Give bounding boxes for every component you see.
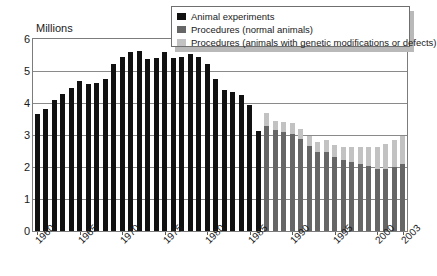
bar-column (60, 39, 65, 231)
bar-column (205, 39, 210, 231)
bar-segment (264, 113, 269, 126)
bar-column (120, 39, 125, 231)
bar-segment (349, 147, 354, 162)
bar-column (324, 39, 329, 231)
y-axis-tick-label: 2 (4, 162, 30, 172)
bar-column (239, 39, 244, 231)
bar-column (375, 39, 380, 231)
bar-segment (35, 114, 40, 231)
bar-segment (366, 166, 371, 231)
bar-column (77, 39, 82, 231)
bar-column (349, 39, 354, 231)
y-axis-tick-label: 5 (4, 66, 30, 76)
bar-segment (77, 81, 82, 231)
bar-segment (315, 152, 320, 231)
bar-segment (162, 52, 167, 231)
bar-segment (341, 160, 346, 231)
bar-segment (358, 147, 363, 165)
bar-column (94, 39, 99, 231)
y-axis-tick-label: 1 (4, 194, 30, 204)
bar-segment (196, 57, 201, 231)
bar-segment (324, 140, 329, 152)
legend-swatch-icon (177, 26, 186, 33)
legend-swatch-icon (177, 39, 186, 46)
bar-segment (332, 157, 337, 231)
bar-segment (52, 100, 57, 231)
bar-column (307, 39, 312, 231)
bar-column (400, 39, 405, 231)
bar-segment (383, 144, 388, 169)
bar-segment (247, 105, 252, 231)
bar-segment (86, 84, 91, 231)
bar-segment (400, 164, 405, 231)
bar-column (69, 39, 74, 231)
bar-column (281, 39, 286, 231)
bar-segment (375, 147, 380, 169)
bar-column (52, 39, 57, 231)
bar-segment (273, 121, 278, 130)
bar-column (162, 39, 167, 231)
bar-segment (145, 59, 150, 231)
bar-segment (273, 130, 278, 231)
bar-column (341, 39, 346, 231)
bar-segment (230, 92, 235, 231)
bar-segment (264, 126, 269, 231)
bar-segment (366, 147, 371, 167)
bar-segment (69, 88, 74, 231)
y-axis-tick-label: 4 (4, 98, 30, 108)
bar-segment (137, 51, 142, 231)
bar-column (86, 39, 91, 231)
bar-column (230, 39, 235, 231)
bar-segment (307, 146, 312, 231)
bar-column (315, 39, 320, 231)
bar-column (256, 39, 261, 231)
bar-segment (290, 134, 295, 231)
bar-column (222, 39, 227, 231)
bar-segment (188, 54, 193, 231)
bar-column (154, 39, 159, 231)
bar-segment (60, 94, 65, 231)
bar-segment (205, 64, 210, 231)
legend-item-label: Procedures (normal animals) (191, 25, 313, 34)
bar-segment (179, 57, 184, 231)
bar-segment (239, 95, 244, 231)
bar-segment (400, 136, 405, 164)
bar-segment (154, 58, 159, 231)
bar-column (43, 39, 48, 231)
bar-column (171, 39, 176, 231)
bar-segment (341, 147, 346, 160)
bar-column (103, 39, 108, 231)
bar-segment (298, 139, 303, 231)
legend-item: Procedures (animals with genetic modific… (177, 36, 405, 48)
bar-column (213, 39, 218, 231)
bar-column (35, 39, 40, 231)
bar-segment (358, 164, 363, 231)
y-axis-tick-label: 6 (4, 34, 30, 44)
bar-segment (324, 152, 329, 231)
bar-segment (120, 57, 125, 231)
bar-series-group (33, 39, 407, 231)
bar-segment (392, 167, 397, 231)
bar-column (298, 39, 303, 231)
bar-segment (290, 123, 295, 134)
bar-segment (315, 142, 320, 152)
bar-column (383, 39, 388, 231)
legend-item: Animal experiments (177, 10, 405, 22)
bar-column (366, 39, 371, 231)
legend-item: Procedures (normal animals) (177, 23, 405, 35)
legend-item-label: Procedures (animals with genetic modific… (191, 38, 437, 47)
bar-column (392, 39, 397, 231)
bar-segment (281, 132, 286, 231)
bar-column (111, 39, 116, 231)
bar-segment (392, 140, 397, 167)
bar-segment (281, 122, 286, 132)
y-axis-title: Millions (36, 22, 73, 34)
bar-segment (111, 64, 116, 231)
bar-column (264, 39, 269, 231)
bar-column (128, 39, 133, 231)
bar-column (290, 39, 295, 231)
legend-swatch-icon (177, 13, 186, 20)
bar-column (179, 39, 184, 231)
legend-item-label: Animal experiments (191, 12, 274, 21)
